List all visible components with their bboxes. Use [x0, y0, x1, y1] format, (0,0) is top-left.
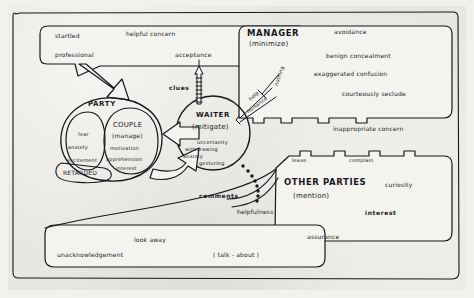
arrow-topbox-to-party	[79, 64, 129, 100]
party-label: PARTY	[88, 101, 116, 108]
top-box-item-startled: startled	[55, 33, 80, 39]
waiter-parenthetical: (mitigate)	[192, 124, 229, 131]
manager-item-exaggerated-confusion: exaggerated confusion	[314, 71, 387, 77]
waiter-state-withdrawing: withdrawing	[185, 147, 218, 152]
manager-parenthetical: (minimize)	[249, 41, 288, 48]
couple-state-apprehension: apprehension	[106, 157, 142, 162]
waiter-state-uncertainty: uncertainty	[197, 140, 228, 145]
waiter-label: WAITER	[196, 112, 230, 119]
manager-item-inappropriate-concern: inappropriate concern	[333, 126, 403, 132]
bottom-statements-box	[45, 225, 325, 267]
comments-label: comments	[199, 193, 239, 199]
manager-item-courteously-seclude: courteously seclude	[342, 91, 406, 97]
party-state-anxiety: anxiety	[68, 145, 88, 150]
couple-label: COUPLE	[113, 122, 142, 129]
couple-parenthetical: (manage)	[112, 133, 143, 139]
bottom-box-item-talk-about: ( talk - about )	[213, 252, 259, 258]
helpfulness-label: helpfulness	[237, 209, 274, 215]
party-state-excitement: excitement	[67, 158, 97, 163]
couple-state-motivation: motivation	[110, 146, 139, 151]
clues-label: clues	[169, 85, 190, 91]
top-box-item-acceptance: acceptance	[175, 52, 212, 58]
manager-item-benign-concealment: benign concealment	[326, 53, 391, 59]
other-parties-edge-leave: leave	[292, 158, 307, 163]
other-parties-edge-complain: complain	[349, 158, 373, 163]
waiter-state-anxiety: anxiety	[183, 154, 203, 159]
couple-state-interest: interest	[116, 166, 137, 171]
other-parties-item-interest: interest	[365, 210, 397, 216]
party-state-fear: fear	[78, 132, 89, 137]
diagram-canvas: startled helpful concern professional ac…	[0, 0, 474, 298]
other-parties-item-assurance: assurance	[307, 234, 339, 240]
waiter-state-gesturing: gesturing	[199, 161, 225, 166]
retarded-label: RETARDED	[63, 170, 97, 176]
top-box-item-helpful-concern: helpful concern	[126, 31, 175, 37]
other-parties-label: OTHER PARTIES	[284, 178, 366, 187]
manager-label: MANAGER	[247, 29, 299, 38]
bottom-box-item-unacknowledgement: unacknowledgement	[57, 252, 123, 258]
manager-item-avoidance: avoidance	[334, 29, 367, 35]
clues-arrow	[195, 66, 203, 104]
top-box-item-professional: professional	[55, 52, 94, 58]
other-parties-parenthetical: (mention)	[293, 193, 329, 200]
other-parties-item-curiosity: curiosity	[385, 182, 412, 188]
bottom-box-item-look-away: look away	[134, 237, 166, 243]
